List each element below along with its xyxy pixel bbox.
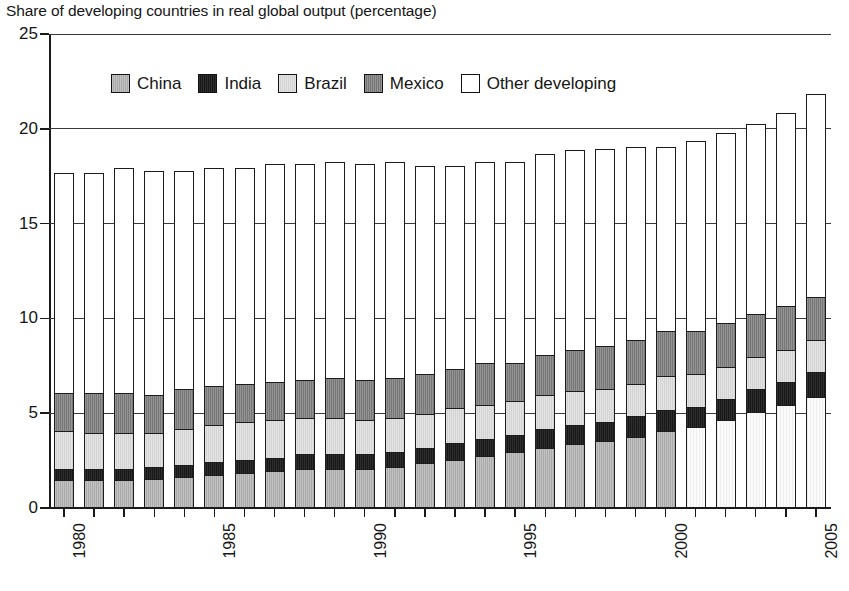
bar-segment-china: [235, 473, 255, 508]
legend-label: Brazil: [304, 74, 347, 93]
bar-segment-mexico: [806, 296, 826, 341]
x-tick-label-1995: 1995: [523, 523, 539, 559]
bar-segment-mexico: [144, 395, 164, 434]
gridline-10: [49, 318, 831, 319]
bar-1990[interactable]: [355, 34, 375, 508]
bar-segment-brazil: [235, 422, 255, 461]
bar-segment-other-developing: [746, 124, 766, 315]
y-tick-label-wrap: 10: [0, 309, 38, 326]
bar-segment-brazil: [806, 340, 826, 373]
bar-segment-brazil: [325, 418, 345, 455]
gridline-20: [49, 128, 831, 129]
bar-1998[interactable]: [595, 34, 615, 508]
x-tick-mark-2003: [755, 508, 756, 517]
bar-segment-india: [565, 425, 585, 445]
bar-segment-india: [626, 416, 646, 438]
bar-segment-mexico: [54, 393, 74, 432]
y-tick-label-wrap: 20: [0, 120, 38, 137]
y-tick-mark-0: [40, 507, 49, 509]
bar-segment-mexico: [565, 350, 585, 393]
y-tick-mark-5: [40, 412, 49, 414]
bar-segment-other-developing: [265, 164, 285, 383]
bar-1982[interactable]: [114, 34, 134, 508]
bar-segment-other-developing: [776, 113, 796, 307]
bar-segment-brazil: [144, 433, 164, 468]
bar-1989[interactable]: [325, 34, 345, 508]
bar-2000[interactable]: [656, 34, 676, 508]
bar-segment-mexico: [475, 363, 495, 406]
x-tick-mark-1998: [605, 508, 606, 517]
legend-item-mexico[interactable]: Mexico: [364, 74, 444, 93]
legend-swatch-india-icon: [198, 74, 217, 93]
bar-segment-india: [54, 469, 74, 481]
bar-segment-india: [505, 435, 525, 453]
bar-segment-other-developing: [385, 162, 405, 379]
bar-1988[interactable]: [295, 34, 315, 508]
bar-segment-china: [716, 420, 736, 508]
bar-segment-india: [174, 465, 194, 477]
x-tick-mark-2000: [665, 508, 666, 517]
bar-segment-mexico: [325, 378, 345, 419]
bar-2001[interactable]: [686, 34, 706, 508]
gridline-5: [49, 413, 831, 414]
bar-1996[interactable]: [535, 34, 555, 508]
bar-segment-india: [776, 382, 796, 406]
bar-segment-brazil: [626, 384, 646, 417]
bar-segment-china: [475, 456, 495, 508]
bar-segment-brazil: [475, 405, 495, 440]
bar-2004[interactable]: [776, 34, 796, 508]
bar-segment-mexico: [716, 323, 736, 368]
bar-segment-mexico: [445, 369, 465, 410]
legend-label: Mexico: [390, 74, 444, 93]
bar-2002[interactable]: [716, 34, 736, 508]
bar-1987[interactable]: [265, 34, 285, 508]
bar-1992[interactable]: [415, 34, 435, 508]
bar-segment-mexico: [84, 393, 104, 434]
bar-segment-china: [505, 452, 525, 508]
x-tick-mark-1986: [244, 508, 245, 517]
bar-2003[interactable]: [746, 34, 766, 508]
x-tick-mark-1994: [484, 508, 485, 517]
bar-segment-india: [235, 460, 255, 474]
bar-1991[interactable]: [385, 34, 405, 508]
bar-1984[interactable]: [174, 34, 194, 508]
bar-1981[interactable]: [84, 34, 104, 508]
x-tick-mark-1995: [514, 508, 515, 517]
y-tick-label: 20: [19, 120, 38, 137]
legend-item-other[interactable]: Other developing: [461, 74, 616, 93]
bar-segment-china: [54, 480, 74, 508]
bar-segment-china: [746, 412, 766, 508]
bar-segment-brazil: [204, 425, 224, 462]
bar-segment-mexico: [114, 393, 134, 434]
legend-item-india[interactable]: India: [198, 74, 261, 93]
bar-segment-china: [595, 441, 615, 508]
x-tick-mark-1990: [364, 508, 365, 517]
legend-swatch-mexico-icon: [364, 74, 383, 93]
bar-segment-brazil: [686, 374, 706, 407]
bar-1995[interactable]: [505, 34, 525, 508]
bar-1986[interactable]: [235, 34, 255, 508]
bar-2005[interactable]: [806, 34, 826, 508]
bar-1997[interactable]: [565, 34, 585, 508]
bar-segment-india: [144, 467, 164, 479]
bar-1999[interactable]: [626, 34, 646, 508]
legend-item-brazil[interactable]: Brazil: [278, 74, 347, 93]
legend-label: China: [137, 74, 181, 93]
bar-1983[interactable]: [144, 34, 164, 508]
bar-segment-brazil: [174, 429, 194, 466]
x-axis-line: [49, 507, 831, 509]
bar-segment-brazil: [776, 350, 796, 383]
bar-segment-brazil: [595, 389, 615, 422]
y-tick-mark-15: [40, 223, 49, 225]
bar-1980[interactable]: [54, 34, 74, 508]
chart-title: Share of developing countries in real gl…: [6, 2, 436, 20]
legend-item-china[interactable]: China: [111, 74, 181, 93]
bar-1994[interactable]: [475, 34, 495, 508]
bar-segment-india: [84, 469, 104, 481]
bar-segment-brazil: [716, 367, 736, 400]
bar-segment-china: [355, 469, 375, 508]
bar-1985[interactable]: [204, 34, 224, 508]
bar-1993[interactable]: [445, 34, 465, 508]
y-tick-label-wrap: 5: [0, 404, 38, 421]
x-tick-mark-1980: [63, 508, 64, 517]
